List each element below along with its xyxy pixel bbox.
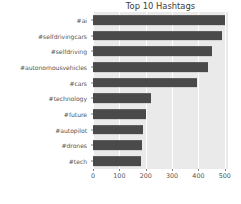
x-tick-mark <box>93 169 94 171</box>
category-axis-labels: #ai#selfdrivingcars#selfdriving#autonomo… <box>0 12 91 169</box>
x-tick-label: 400 <box>192 172 204 180</box>
x-tick-mark <box>198 169 199 171</box>
category-label: #drones <box>61 142 87 149</box>
bar <box>93 93 151 103</box>
bar <box>93 62 208 72</box>
x-tick-mark <box>119 169 120 171</box>
x-tick-mark <box>225 169 226 171</box>
x-tick-label: 200 <box>140 172 152 180</box>
category-label: #cars <box>69 79 87 86</box>
bar <box>93 15 225 25</box>
bar <box>93 156 141 166</box>
chart-figure: Top 10 Hashtags #ai#selfdrivingcars#self… <box>0 0 241 204</box>
category-label: #future <box>64 111 87 118</box>
bar <box>93 141 142 151</box>
bar <box>93 31 222 41</box>
plot-area <box>93 12 228 169</box>
x-tick-label: 100 <box>113 172 125 180</box>
x-tick-mark <box>146 169 147 171</box>
x-tick-mark <box>172 169 173 171</box>
chart-title: Top 10 Hashtags <box>93 1 228 11</box>
bar <box>93 125 143 135</box>
bar <box>93 109 146 119</box>
category-label: #autopilot <box>55 126 87 133</box>
category-label: #ai <box>77 16 87 23</box>
category-label: #selfdriving <box>51 48 87 55</box>
bar <box>93 78 197 88</box>
category-label: #technology <box>49 95 87 102</box>
category-label: #tech <box>69 158 87 165</box>
x-tick-label: 0 <box>91 172 95 180</box>
category-label: #autonomousvehicles <box>20 63 87 70</box>
x-axis: 0100200300400500 <box>93 169 228 191</box>
x-tick-label: 300 <box>166 172 178 180</box>
category-label: #selfdrivingcars <box>38 32 87 39</box>
x-tick-label: 500 <box>219 172 231 180</box>
bar <box>93 46 212 56</box>
gridline <box>225 12 226 169</box>
